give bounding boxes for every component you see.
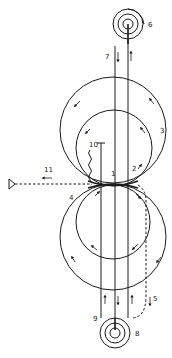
arrow-upper-inner-left — [86, 129, 90, 133]
arrow-2 — [138, 165, 141, 169]
upper-outer-circle — [60, 77, 166, 183]
label-2: 2 — [132, 165, 136, 173]
label-3: 3 — [160, 127, 164, 135]
arrow-lower-inner-tl — [95, 192, 99, 196]
label-5: 5 — [153, 295, 157, 303]
output-triangle-icon — [9, 179, 15, 189]
arrow-lower-inner-bl — [92, 246, 97, 250]
lower-inner-circle — [76, 185, 150, 259]
arrow-lower-outer-left — [72, 257, 75, 262]
lower-spool-icon — [100, 318, 130, 348]
dashed-return-path — [131, 200, 146, 318]
arrow-upper-outer-left — [75, 101, 80, 106]
lower-outer-circle — [60, 184, 166, 290]
arrow-upper-outer-right — [150, 99, 154, 104]
label-7: 7 — [105, 53, 109, 61]
upper-spool-icon — [113, 9, 144, 44]
label-9: 9 — [93, 315, 97, 323]
arrow-upper-inner-right — [141, 128, 145, 133]
arrow-lower-inner-br — [133, 244, 138, 249]
label-11: 11 — [44, 166, 53, 174]
label-8: 8 — [135, 330, 139, 338]
label-1: 1 — [111, 170, 115, 178]
label-10: 10 — [89, 141, 98, 149]
label-4: 4 — [69, 194, 74, 202]
label-6: 6 — [148, 21, 153, 29]
tape-path-diagram: 1 2 3 4 5 6 7 8 9 10 11 — [0, 0, 172, 358]
